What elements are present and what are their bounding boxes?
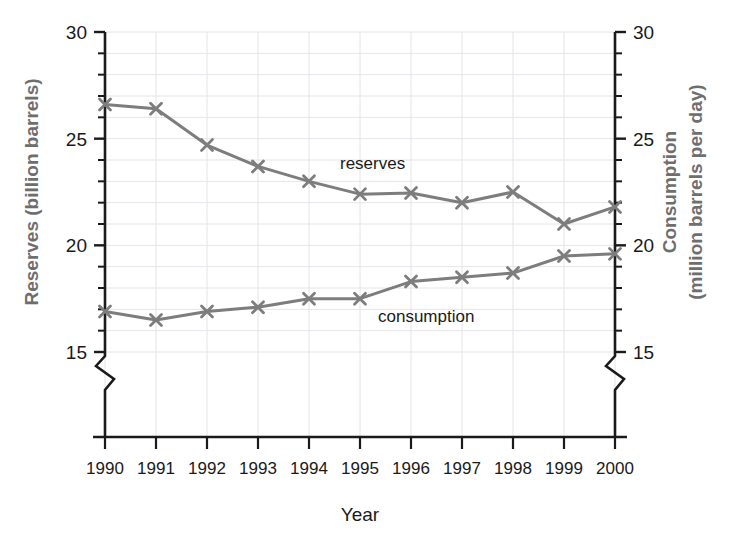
left-axis-tick-label: 25 [66,129,87,150]
right-axis-tick-label: 20 [633,235,654,256]
x-axis-tick-label: 1998 [494,459,532,478]
right-axis-tick-labels: 30252015 [633,22,654,363]
left-axis-tick-label: 20 [66,235,87,256]
x-axis-tick-label: 1996 [392,459,430,478]
left-axis-tick-label: 15 [66,342,87,363]
series-label-reserves: reserves [340,154,405,173]
left-axis-title: Reserves (billion barrels) [21,78,42,305]
x-axis-tick-label: 1991 [137,459,175,478]
x-axis-tick-label: 1992 [188,459,226,478]
x-axis-tick-label: 1994 [290,459,328,478]
line-chart: 30252015 30252015 1990199119921993199419… [0,0,734,545]
x-axis-ticks [105,437,615,449]
left-axis-tick-labels: 30252015 [66,22,87,363]
x-axis-tick-label: 1997 [443,459,481,478]
right-axis-ticks [615,32,626,352]
x-axis-tick-label: 1995 [341,459,379,478]
x-axis: 1990199119921993199419951996199719981999… [86,437,634,478]
x-axis-title: Year [341,504,380,525]
x-axis-tick-label: 2000 [596,459,634,478]
right-axis-tick-label: 15 [633,342,654,363]
series-label-consumption: consumption [378,307,474,326]
right-axis-title-line2: (million barrels per day) [685,84,706,299]
right-axis-title-line1: Consumption [659,131,680,253]
left-axis-tick-label: 30 [66,22,87,43]
x-axis-tick-label: 1993 [239,459,277,478]
x-axis-tick-labels: 1990199119921993199419951996199719981999… [86,459,634,478]
chart-container: 30252015 30252015 1990199119921993199419… [0,0,734,545]
right-axis-tick-label: 30 [633,22,654,43]
x-axis-tick-label: 1999 [545,459,583,478]
right-axis-tick-label: 25 [633,129,654,150]
left-axis-ticks [94,32,105,352]
x-axis-tick-label: 1990 [86,459,124,478]
